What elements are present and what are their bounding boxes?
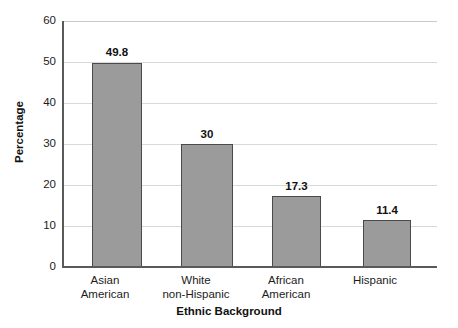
category-label-african-american: African American [248, 273, 324, 301]
category-line-1: White [152, 273, 240, 287]
ytick-label-10: 10 [24, 220, 56, 232]
category-line-2: American [248, 287, 324, 301]
ytick-label-40: 40 [24, 97, 56, 109]
category-line-2: American [67, 287, 143, 301]
ytick-label-50: 50 [24, 56, 56, 68]
category-label-white-non-hispanic: White non-Hispanic [152, 273, 240, 301]
category-label-hispanic: Hispanic [336, 273, 414, 287]
bar-chart-figure: 49.8 30 17.3 11.4 60 50 40 30 20 10 0 As… [0, 0, 458, 328]
ytick-label-60: 60 [24, 15, 56, 27]
x-axis-title: Ethnic Background [0, 305, 458, 317]
category-line-1: African [248, 273, 324, 287]
y-axis-title: Percentage [13, 82, 25, 182]
category-line-1: Asian [67, 273, 143, 287]
ytick-label-0: 0 [24, 261, 56, 273]
category-line-1: Hispanic [336, 273, 414, 287]
category-line-2: non-Hispanic [152, 287, 240, 301]
ytick-label-20: 20 [24, 179, 56, 191]
ytick-label-30: 30 [24, 138, 56, 150]
category-label-asian-american: Asian American [67, 273, 143, 301]
